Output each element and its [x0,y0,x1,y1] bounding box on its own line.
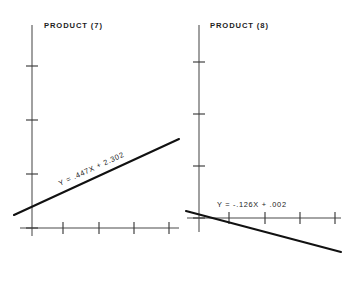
equation-label-product-8: Y = -.126X + .002 [217,200,287,209]
regression-plot-figure: PRODUCT (7) Y = .447X + 2.302 PRODUCT (8… [0,0,346,295]
panel-title-product-7: PRODUCT (7) [44,21,103,30]
figure-background [0,0,346,295]
panel-title-product-8: PRODUCT (8) [210,21,269,30]
